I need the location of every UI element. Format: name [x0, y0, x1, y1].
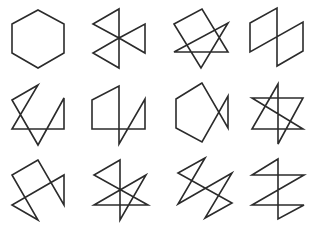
polygon-outline: [178, 158, 232, 218]
polygon-outline: [12, 85, 64, 145]
rect-triangle-icon: [160, 0, 240, 77]
figure-star-triangle: [80, 153, 160, 230]
polygon-outline: [94, 160, 148, 220]
zigzag-c-icon: [0, 153, 80, 230]
polygon-outline: [93, 9, 145, 68]
polygon-outline: [92, 86, 145, 144]
figure-double-parallelogram: [238, 0, 312, 77]
star-triangle-icon: [80, 153, 160, 230]
figure-zigzag-c: [0, 153, 80, 230]
star-variant-icon: [238, 78, 312, 155]
pentagon-bowtie-icon: [160, 78, 240, 155]
zigzag-b-icon: [80, 78, 160, 155]
figure-pentagon-bowtie: [160, 78, 240, 155]
figure-star-variant: [238, 78, 312, 155]
lightning-a-icon: [160, 153, 240, 230]
polygon-outline: [176, 83, 228, 142]
polygon-outline: [12, 160, 64, 220]
polygon-outline: [252, 159, 304, 219]
figure-pinwheel: [80, 0, 160, 77]
polygon-outline: [12, 10, 64, 68]
figure-lightning-a: [160, 153, 240, 230]
pinwheel-icon: [80, 0, 160, 77]
polygon-outline: [252, 84, 303, 144]
figure-lightning-b: [238, 153, 312, 230]
figure-zigzag-b: [80, 78, 160, 155]
polygon-outline: [250, 8, 303, 66]
double-parallelogram-icon: [238, 0, 312, 77]
figure-rect-triangle: [160, 0, 240, 77]
figure-hexagon: [0, 0, 80, 77]
polygon-outline: [174, 9, 228, 68]
hexagon-icon: [0, 0, 80, 77]
lightning-b-icon: [238, 153, 312, 230]
zigzag-a-icon: [0, 78, 80, 155]
shape-grid: [0, 0, 312, 231]
figure-zigzag-a: [0, 78, 80, 155]
